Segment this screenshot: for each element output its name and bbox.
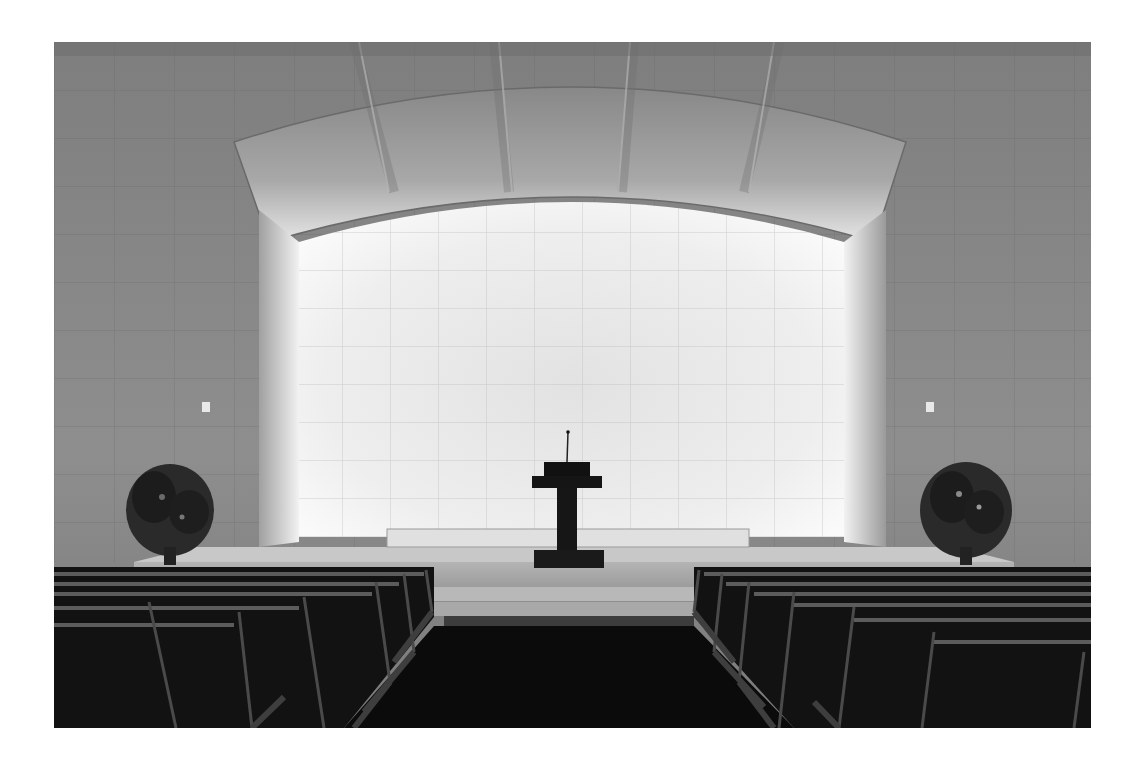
chapel-photograph: Black and white photograph of a minimali… [54,42,1091,728]
wall-plate-left [202,402,210,412]
pews-right [694,567,1091,728]
wall-plate-right [926,402,934,412]
